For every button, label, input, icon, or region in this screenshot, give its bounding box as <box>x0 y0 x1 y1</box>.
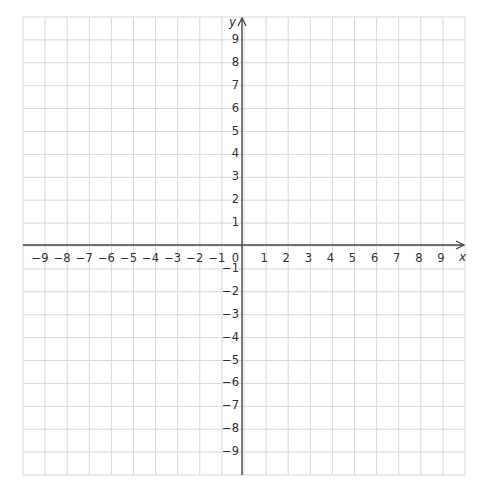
y-tick-label: 8 <box>232 55 239 69</box>
y-tick-label: 2 <box>232 192 239 206</box>
plot-svg: −9−8−7−6−5−4−3−2−1123456789−9−8−7−6−5−4−… <box>0 0 491 500</box>
x-tick-label: 3 <box>305 251 312 265</box>
tick-labels: −9−8−7−6−5−4−3−2−1123456789−9−8−7−6−5−4−… <box>32 15 467 458</box>
x-tick-label: −7 <box>76 251 93 265</box>
x-tick-label: −9 <box>32 251 49 265</box>
x-tick-label: −5 <box>120 251 137 265</box>
grid-lines <box>23 17 465 475</box>
y-tick-label: 4 <box>232 146 239 160</box>
y-tick-label: −7 <box>222 398 239 412</box>
x-tick-label: 1 <box>260 251 267 265</box>
y-tick-label: −2 <box>222 284 239 298</box>
y-tick-label: −3 <box>222 307 239 321</box>
origin-label: 0 <box>232 251 239 265</box>
y-tick-label: 9 <box>232 32 239 46</box>
y-tick-label: −4 <box>222 330 239 344</box>
y-tick-label: 5 <box>232 124 239 138</box>
x-tick-label: −8 <box>54 251 71 265</box>
y-tick-label: 6 <box>232 101 239 115</box>
y-tick-label: −5 <box>222 353 239 367</box>
x-tick-label: 4 <box>327 251 334 265</box>
x-tick-label: 8 <box>415 251 422 265</box>
y-tick-label: 3 <box>232 169 239 183</box>
x-tick-label: 2 <box>283 251 290 265</box>
y-axis-title: y <box>228 15 237 29</box>
y-tick-label: −6 <box>222 375 239 389</box>
y-tick-label: −9 <box>222 444 239 458</box>
x-tick-label: −2 <box>186 251 203 265</box>
x-tick-label: 7 <box>393 251 400 265</box>
x-tick-label: 9 <box>437 251 444 265</box>
x-tick-label: −4 <box>142 251 159 265</box>
x-tick-label: −6 <box>98 251 115 265</box>
x-axis-title: x <box>458 250 467 264</box>
y-tick-label: 1 <box>232 215 239 229</box>
x-tick-label: −3 <box>164 251 181 265</box>
x-tick-label: 5 <box>349 251 356 265</box>
y-tick-label: 7 <box>232 78 239 92</box>
y-tick-label: −8 <box>222 421 239 435</box>
x-tick-label: 6 <box>371 251 378 265</box>
